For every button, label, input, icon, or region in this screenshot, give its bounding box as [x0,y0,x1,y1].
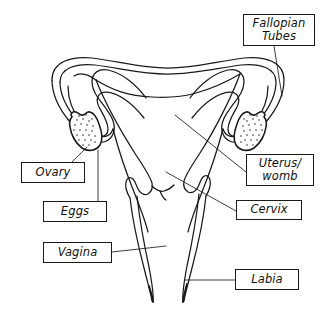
label-fallopian-tubes[interactable]: Fallopian Tubes [243,14,315,46]
label-uterus-womb[interactable]: Uterus/ womb [246,154,314,186]
label-cervix[interactable]: Cervix [236,200,302,220]
label-vagina[interactable]: Vagina [43,242,112,263]
diagram-page: Fallopian Tubes Uterus/ womb Cervix Ovar… [0,0,336,322]
label-ovary[interactable]: Ovary [21,162,85,183]
label-eggs[interactable]: Eggs [43,201,107,222]
label-labia[interactable]: Labia [235,269,299,290]
